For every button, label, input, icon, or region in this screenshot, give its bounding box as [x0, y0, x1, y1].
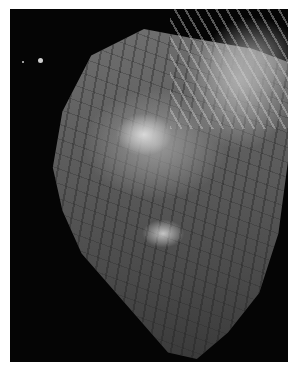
photo-frame: [10, 9, 288, 362]
speck: [22, 61, 24, 63]
great-vessels-region: [170, 9, 288, 129]
speck: [38, 58, 43, 63]
